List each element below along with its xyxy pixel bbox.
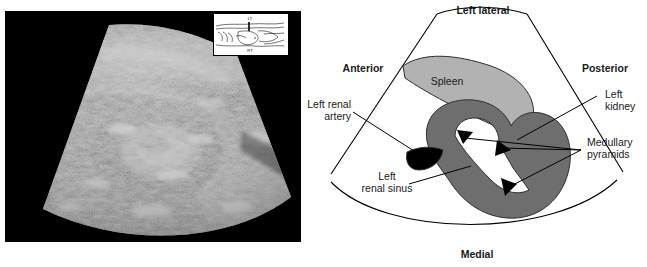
ultrasound-panel: LT RT — [5, 11, 301, 242]
inset-label-lt: LT — [248, 16, 253, 21]
structure-label-medullary-pyramids-line2: pyramids — [587, 148, 630, 160]
orientation-label-left-lateral: Left lateral — [456, 4, 509, 16]
orientation-label-medial: Medial — [461, 248, 494, 260]
structure-label-left-renal-sinus-line1: Left — [378, 170, 396, 182]
kidney-schematic-diagram: Left lateral Anterior Posterior Medial S… — [305, 0, 647, 267]
figure-root: LT RT — [0, 0, 647, 267]
diagram-panel: Left lateral Anterior Posterior Medial S… — [305, 0, 647, 267]
structure-label-spleen: Spleen — [431, 75, 464, 87]
orientation-inset: LT RT — [213, 13, 289, 56]
structure-label-left-kidney-line1: Left — [605, 88, 623, 100]
orientation-label-posterior: Posterior — [582, 62, 628, 74]
structure-label-left-renal-sinus-line2: renal sinus — [362, 182, 413, 194]
structure-label-left-kidney-line2: kidney — [605, 100, 636, 112]
structure-label-left-renal-artery-line1: Left renal — [307, 98, 351, 110]
structure-label-left-renal-artery-line2: artery — [324, 110, 352, 122]
inset-label-rt: RT — [247, 48, 253, 53]
structure-label-medullary-pyramids-line1: Medullary — [587, 136, 633, 148]
orientation-inset-diagram: LT RT — [214, 14, 286, 53]
orientation-label-anterior: Anterior — [343, 62, 384, 74]
